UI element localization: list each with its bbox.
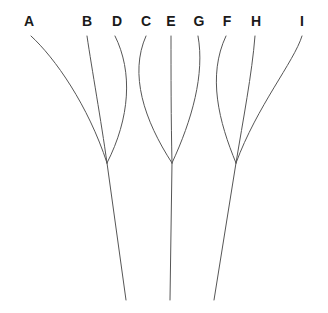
tree-diagram-svg: A B D C E G F H I — [0, 0, 328, 313]
edge-N2-stem — [170, 163, 172, 300]
edge-I-N3 — [236, 36, 302, 163]
leaf-label-e: E — [166, 13, 175, 29]
edge-D-N1 — [107, 36, 127, 163]
leaf-label-group: A B D C E G F H I — [24, 13, 304, 29]
edge-N1-stem — [107, 163, 126, 300]
leaf-label-d: D — [112, 13, 122, 29]
edge-E-N2 — [171, 36, 172, 163]
edge-C-N2 — [139, 36, 172, 163]
leaf-label-i: I — [300, 13, 304, 29]
leaf-label-c: C — [141, 13, 151, 29]
diagram-canvas: A B D C E G F H I — [0, 0, 328, 313]
edge-F-N3 — [216, 36, 236, 163]
edge-group — [31, 36, 302, 300]
edge-B-N1 — [87, 36, 107, 163]
edge-A-N1 — [31, 36, 107, 163]
leaf-label-f: F — [223, 13, 232, 29]
edge-H-N3 — [236, 36, 255, 163]
leaf-label-g: G — [194, 13, 205, 29]
edge-G-N2 — [172, 36, 200, 163]
leaf-label-h: H — [251, 13, 261, 29]
leaf-label-a: A — [24, 13, 34, 29]
edge-N3-stem — [214, 163, 236, 300]
leaf-label-b: B — [82, 13, 92, 29]
